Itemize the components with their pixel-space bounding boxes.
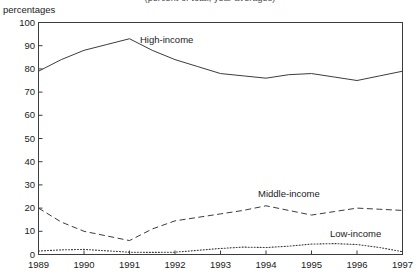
x-axis-tick-label: 1993 xyxy=(201,260,241,270)
x-axis-tick-label: 1991 xyxy=(110,260,150,270)
x-axis-tick-label: 1995 xyxy=(292,260,332,270)
plot-frame xyxy=(39,23,403,255)
x-axis-tick-label: 1994 xyxy=(246,260,286,270)
x-axis-tick-label: 1990 xyxy=(64,260,104,270)
series-label-middle-income: Middle-income xyxy=(258,188,320,199)
chart-figure: (percent of total, year averages) percen… xyxy=(0,0,420,276)
series-label-high-income: High-income xyxy=(140,34,193,45)
series-label-low-income: Low-income xyxy=(330,228,381,239)
plot-svg xyxy=(38,22,403,255)
x-axis-tick-label: 1997 xyxy=(383,260,420,270)
x-axis-tick-label: 1989 xyxy=(19,260,59,270)
x-axis-tick-label: 1996 xyxy=(337,260,377,270)
x-axis-tick-label: 1992 xyxy=(155,260,195,270)
plot-area xyxy=(38,22,403,255)
